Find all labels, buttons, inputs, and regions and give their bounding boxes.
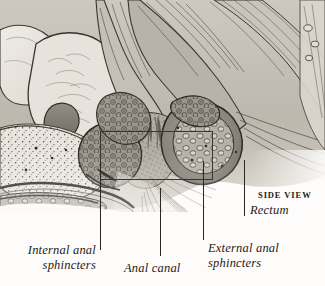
anal-canal-leader <box>160 188 161 256</box>
label-anal-canal: Anal canal <box>124 261 181 276</box>
label-rectum-line1: Rectum <box>250 203 289 218</box>
label-anal-canal-line1: Anal canal <box>124 261 181 276</box>
label-rectum: Rectum <box>250 203 289 218</box>
label-external-anal-sphincters-line1: External anal <box>208 241 279 256</box>
external-anal-sphincters-leader <box>203 161 204 240</box>
label-internal-anal-sphincters-line2: sphincters <box>8 258 96 273</box>
rectum-leader <box>244 160 245 216</box>
label-internal-anal-sphincters-line1: Internal anal <box>8 243 96 258</box>
internal-anal-sphincters-leader <box>100 161 101 250</box>
label-external-anal-sphincters: External anal sphincters <box>208 241 279 272</box>
side-view-label: SIDE VIEW <box>258 190 312 200</box>
anatomy-figure: SIDE VIEW Rectum Internal anal sphincter… <box>0 0 325 286</box>
label-internal-anal-sphincters: Internal anal sphincters <box>8 243 96 274</box>
label-external-anal-sphincters-line2: sphincters <box>208 256 279 271</box>
